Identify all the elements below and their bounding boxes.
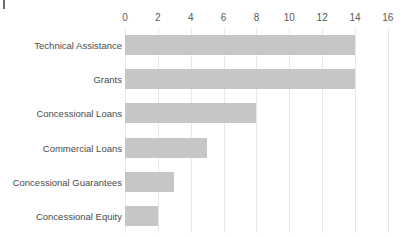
bar-row[interactable] [125, 199, 158, 233]
bar-concessional-loans[interactable] [125, 103, 256, 123]
bar-commercial-loans[interactable] [125, 138, 207, 158]
category-label-concessional-equity: Concessional Equity [4, 210, 122, 221]
bars [125, 28, 355, 233]
value-axis-tick-label: 16 [382, 12, 393, 24]
gridline [355, 28, 356, 233]
bar-row[interactable] [125, 131, 207, 165]
value-axis-tick-label: 14 [349, 12, 360, 24]
gridline [388, 28, 389, 233]
category-label-technical-assistance: Technical Assistance [4, 40, 122, 51]
category-label-concessional-guarantees: Concessional Guarantees [4, 176, 122, 187]
bar-concessional-equity[interactable] [125, 206, 158, 226]
value-axis-tick-label: 8 [254, 12, 260, 24]
value-axis-tick-label: 4 [188, 12, 194, 24]
bar-grants[interactable] [125, 69, 355, 89]
bar-row[interactable] [125, 28, 355, 62]
value-axis-tick-label: 12 [317, 12, 328, 24]
category-axis: Technical AssistanceGrantsConcessional L… [0, 28, 122, 233]
category-label-grants: Grants [4, 74, 122, 85]
value-axis-tick-label: 6 [221, 12, 227, 24]
category-label-commercial-loans: Commercial Loans [4, 142, 122, 153]
category-label-concessional-loans: Concessional Loans [4, 108, 122, 119]
bar-concessional-guarantees[interactable] [125, 172, 174, 192]
bar-chart: Technical AssistanceGrantsConcessional L… [0, 0, 407, 237]
value-axis-tick-label: 0 [122, 12, 128, 24]
value-axis-tick-label: 10 [284, 12, 295, 24]
bar-row[interactable] [125, 165, 174, 199]
value-axis: 0246810121416 [0, 0, 407, 28]
bar-technical-assistance[interactable] [125, 35, 355, 55]
bar-row[interactable] [125, 62, 355, 96]
value-axis-tick-label: 2 [155, 12, 161, 24]
bar-row[interactable] [125, 96, 256, 130]
plot-area [125, 28, 355, 233]
